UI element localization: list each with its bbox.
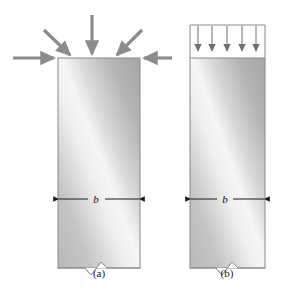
panel-caption-b: (b) <box>221 267 234 280</box>
load-arrow-group-a <box>13 15 172 58</box>
dimension-label-b-b: b <box>222 193 228 205</box>
panel-caption-a: (a) <box>93 267 106 280</box>
panel-a: b (a) <box>13 15 172 280</box>
column-loading-diagram: b (a) <box>0 0 285 290</box>
dimension-label-b-a: b <box>93 193 99 205</box>
column-body-b <box>190 58 265 268</box>
load-arrow-diagonal-left <box>44 30 70 55</box>
load-arrow-diagonal-right <box>117 30 142 55</box>
distributed-load-arrow-group <box>198 26 256 51</box>
panel-b: b (b) <box>190 25 265 280</box>
figure-root: b (a) <box>0 0 285 290</box>
column-body-a <box>58 58 140 268</box>
